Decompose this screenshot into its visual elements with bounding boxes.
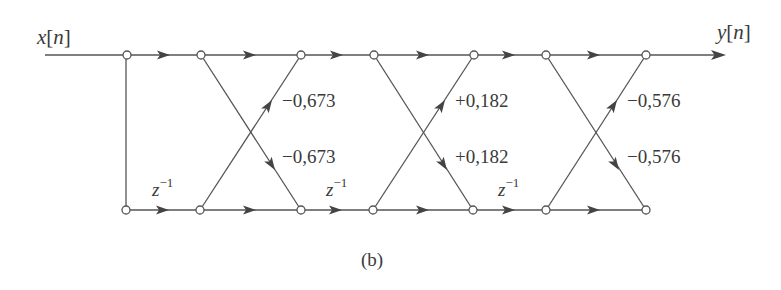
output-label: y[n]	[715, 20, 751, 44]
node-bottom-end	[642, 206, 650, 214]
arrow-up-diagonal-icon	[606, 98, 621, 114]
arrow-down-diagonal-icon	[264, 157, 279, 173]
node-top-split	[123, 51, 131, 59]
node-bottom	[369, 206, 377, 214]
stage-2-upper-coefficient: +0,182	[455, 90, 508, 111]
node-bottom	[469, 206, 477, 214]
node-top-output	[642, 51, 650, 59]
node-top	[197, 51, 205, 59]
bottom-rail	[126, 59, 642, 210]
delay-label-2: z−1	[325, 175, 347, 200]
arrow-up-diagonal-icon	[434, 98, 449, 114]
delay-label-3: z−1	[497, 175, 519, 200]
node-top	[470, 51, 478, 59]
stage-1-lower-coefficient: −0,673	[282, 146, 335, 167]
lattice-filter-diagram: x[n] y[n]	[0, 0, 781, 290]
stage-2-cross	[375, 58, 472, 207]
node-bottom	[542, 206, 550, 214]
node-top	[297, 51, 305, 59]
stage-1-cross	[202, 58, 299, 207]
node-bottom	[297, 206, 305, 214]
stage-1-upper-coefficient: −0,673	[282, 90, 335, 111]
stage-3-upper-coefficient: −0,576	[627, 90, 680, 111]
arrow-up-diagonal-icon	[261, 98, 276, 114]
figure-caption: (b)	[361, 249, 383, 271]
input-label: x[n]	[36, 25, 71, 49]
arrow-down-diagonal-icon	[436, 157, 451, 173]
stage-3-lower-coefficient: −0,576	[627, 146, 680, 167]
delay-label-1: z−1	[151, 175, 173, 200]
stage-2-lower-coefficient: +0,182	[455, 146, 508, 167]
node-top	[370, 51, 378, 59]
node-bottom	[196, 206, 204, 214]
node-bottom	[122, 206, 130, 214]
stage-3-cross	[548, 58, 644, 207]
node-top	[542, 51, 550, 59]
rail-arrowheads	[156, 50, 726, 215]
